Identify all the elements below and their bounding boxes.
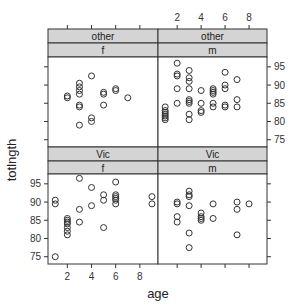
x-tick-label: 2 (174, 12, 180, 23)
strip-outer-label: Vic (96, 149, 110, 160)
trellis-scatter-chart: otherfothermVicfVicm 2244668875758080858… (0, 0, 296, 308)
x-tick-label: 4 (198, 12, 204, 23)
x-axis-label: age (147, 286, 169, 301)
x-tick-label: 8 (137, 271, 143, 282)
y-tick-label: 95 (274, 61, 286, 72)
x-tick-label: 4 (89, 271, 95, 282)
strip-inner-label: f (102, 45, 105, 56)
y-tick-label: 85 (274, 98, 286, 109)
panel-top-right: otherm (158, 29, 267, 147)
y-tick-label: 90 (274, 80, 286, 91)
y-axis-label: totlngth (4, 139, 19, 182)
y-tick-label: 90 (30, 197, 42, 208)
y-tick-label: 75 (30, 251, 42, 262)
strip-outer-label: Vic (206, 149, 220, 160)
strip-inner-label: m (208, 163, 216, 174)
x-tick-label: 2 (65, 271, 71, 282)
strip-inner-label: f (102, 163, 105, 174)
strip-outer-label: other (201, 31, 224, 42)
x-tick-label: 6 (113, 271, 119, 282)
strip-outer-label: other (92, 31, 115, 42)
strip-inner-label: m (208, 45, 216, 56)
panel-bottom-left: Vicf (48, 147, 158, 264)
x-tick-label: 8 (246, 12, 252, 23)
panel-top-left: otherf (48, 29, 158, 147)
y-tick-label: 95 (30, 178, 42, 189)
panel-bottom-right: Vicm (158, 147, 267, 264)
y-tick-label: 85 (30, 215, 42, 226)
y-tick-label: 80 (30, 233, 42, 244)
x-tick-label: 6 (222, 12, 228, 23)
y-tick-label: 80 (274, 116, 286, 127)
panels-group: otherfothermVicfVicm (48, 29, 267, 264)
panel-frame (158, 174, 267, 264)
y-tick-label: 75 (274, 134, 286, 145)
